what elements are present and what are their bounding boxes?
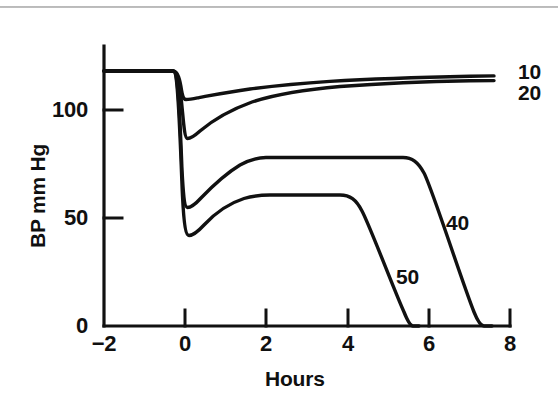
y-tick-label-0: 0 bbox=[30, 313, 88, 339]
x-tick-label-8: 8 bbox=[490, 331, 530, 357]
chart-figure: 100 50 0 −2 0 2 4 6 8 BP mm Hg Hours 10 … bbox=[0, 0, 558, 406]
series-line-50 bbox=[104, 71, 419, 326]
series-label-20: 20 bbox=[518, 81, 541, 105]
series-line-10 bbox=[104, 71, 494, 100]
y-axis-ticks bbox=[104, 110, 122, 218]
x-tick-label-0: 0 bbox=[165, 331, 205, 357]
x-tick-label-6: 6 bbox=[409, 331, 449, 357]
y-axis-title: BP mm Hg bbox=[26, 144, 50, 248]
x-tick-label--2: −2 bbox=[84, 331, 124, 357]
y-tick-label-100: 100 bbox=[30, 97, 88, 123]
series-label-50: 50 bbox=[396, 265, 419, 289]
x-tick-label-2: 2 bbox=[246, 331, 286, 357]
series-line-20 bbox=[104, 71, 494, 139]
x-tick-label-4: 4 bbox=[328, 331, 368, 357]
series-label-40: 40 bbox=[446, 211, 469, 235]
series-line-40 bbox=[104, 71, 492, 326]
x-axis-ticks bbox=[185, 310, 510, 326]
x-axis-title: Hours bbox=[265, 367, 325, 391]
